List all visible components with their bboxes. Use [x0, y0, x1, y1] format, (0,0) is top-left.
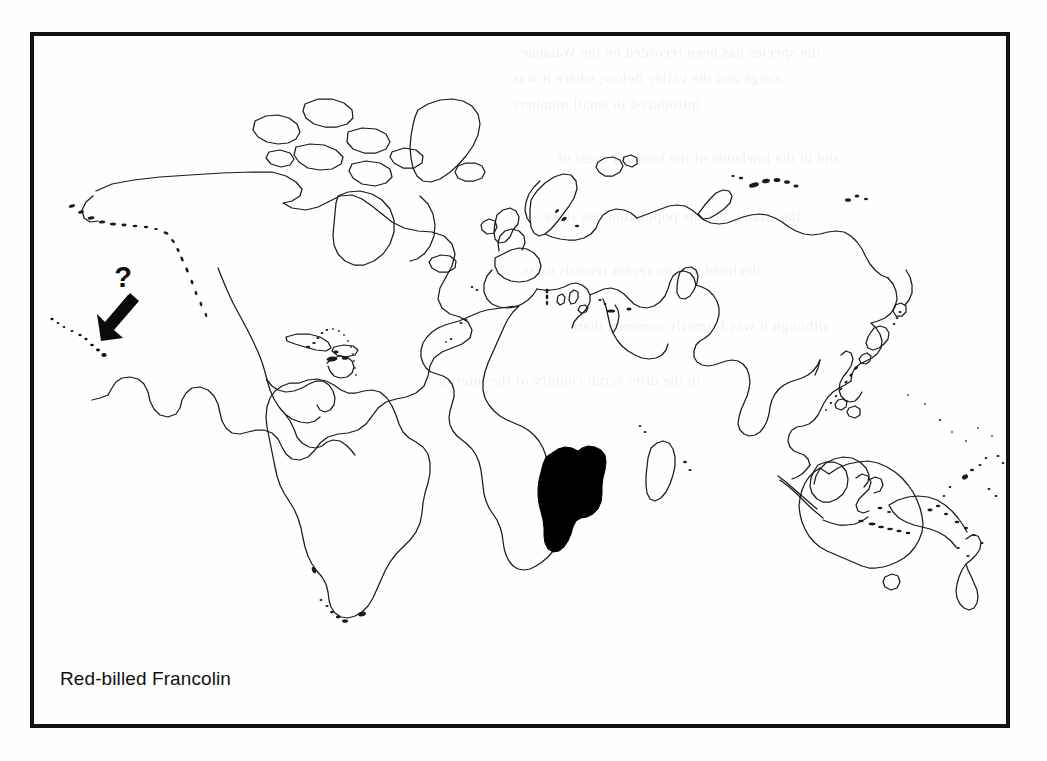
map-caption: Red-billed Francolin [60, 668, 231, 690]
map-frame-border [30, 32, 1010, 728]
